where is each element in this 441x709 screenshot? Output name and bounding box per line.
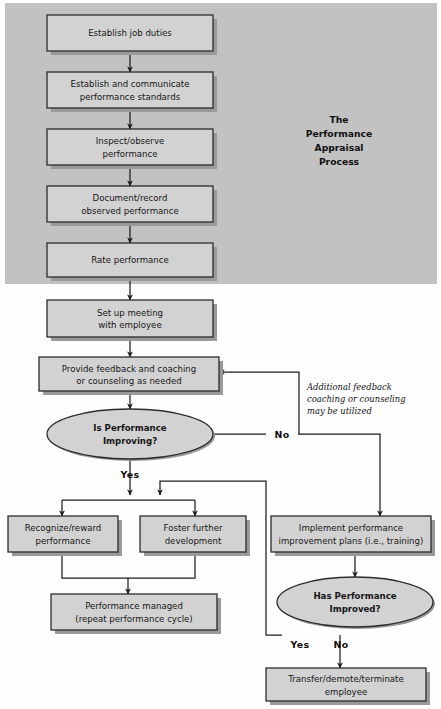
node-box [51, 594, 217, 630]
edge-label-improved-no: No [334, 639, 349, 650]
node-label-line-2: performance [35, 536, 90, 546]
node-box [47, 129, 213, 165]
node-document-record[interactable]: Document/record observed performance [47, 186, 217, 226]
node-box [271, 516, 431, 552]
node-is-performance-improving[interactable]: Is Performance Improving? [47, 409, 215, 461]
node-label-line-2: or counseling as needed [76, 376, 181, 386]
edge-label-improving-yes: Yes [120, 469, 140, 480]
panel-title-line-2: Performance [306, 128, 372, 139]
node-box [47, 300, 213, 337]
node-label-line-2: employee [325, 687, 367, 697]
node-label-line-1: Transfer/demote/terminate [287, 674, 404, 684]
node-provide-feedback[interactable]: Provide feedback and coaching or counsel… [39, 357, 223, 395]
node-label-line-2: improvement plans (i.e., training) [279, 536, 424, 546]
node-implement-plans[interactable]: Implement performance improvement plans … [271, 516, 435, 556]
node-box [47, 72, 213, 108]
panel-title-line-4: Process [319, 156, 360, 167]
node-set-up-meeting[interactable]: Set up meeting with employee [47, 300, 217, 341]
node-ellipse [47, 409, 213, 459]
panel-title-line-3: Appraisal [315, 142, 364, 153]
node-label-line-1: Is Performance [93, 423, 167, 433]
node-transfer-demote[interactable]: Transfer/demote/terminate employee [266, 668, 430, 705]
node-label-line-2: observed performance [81, 206, 179, 216]
node-label-line-1: Implement performance [299, 523, 403, 533]
flowchart-figure: The Performance Appraisal Process [0, 0, 441, 709]
node-label-line-2: Improving? [103, 436, 157, 446]
node-inspect-observe[interactable]: Inspect/observe performance [47, 129, 217, 169]
node-foster-development[interactable]: Foster further development [140, 516, 250, 556]
node-recognize-reward[interactable]: Recognize/reward performance [8, 516, 122, 556]
node-box [140, 516, 246, 552]
node-label: Establish job duties [88, 28, 172, 38]
annotation-line-1: Additional feedback [306, 382, 392, 392]
node-label-line-1: Inspect/observe [96, 136, 165, 146]
flowchart-canvas: The Performance Appraisal Process [0, 0, 441, 709]
node-performance-managed[interactable]: Performance managed (repeat performance … [51, 594, 221, 634]
node-label-line-1: Document/record [93, 193, 168, 203]
node-label-line-2: (repeat performance cycle) [75, 614, 192, 624]
node-label-line-2: Improved? [329, 604, 380, 614]
node-label-line-1: Performance managed [85, 601, 183, 611]
node-label-line-2: performance [102, 149, 157, 159]
edge-label-improved-yes: Yes [290, 639, 310, 650]
annotation-line-3: may be utilized [307, 406, 372, 416]
node-establish-standards[interactable]: Establish and communicate performance st… [47, 72, 217, 112]
node-label-line-2: performance standards [80, 92, 181, 102]
node-label-line-1: Provide feedback and coaching [62, 364, 196, 374]
node-label-line-1: Foster further [164, 523, 223, 533]
node-box [47, 186, 213, 222]
node-label-line-1: Recognize/reward [25, 523, 102, 533]
node-label-line-1: Has Performance [313, 591, 396, 601]
node-establish-job-duties[interactable]: Establish job duties [47, 15, 217, 55]
node-label-line-1: Set up meeting [97, 308, 163, 318]
node-ellipse [277, 577, 433, 627]
node-label: Rate performance [91, 255, 168, 265]
annotation-line-2: coaching or counseling [307, 394, 406, 404]
node-box [8, 516, 118, 552]
node-label-line-2: development [165, 536, 222, 546]
node-label-line-2: with employee [98, 320, 161, 330]
node-has-performance-improved[interactable]: Has Performance Improved? [277, 577, 435, 629]
node-label-line-1: Establish and communicate [71, 79, 190, 89]
edge-label-improving-no: No [275, 429, 290, 440]
node-rate-performance[interactable]: Rate performance [47, 243, 217, 281]
panel-title-line-1: The [329, 114, 348, 125]
